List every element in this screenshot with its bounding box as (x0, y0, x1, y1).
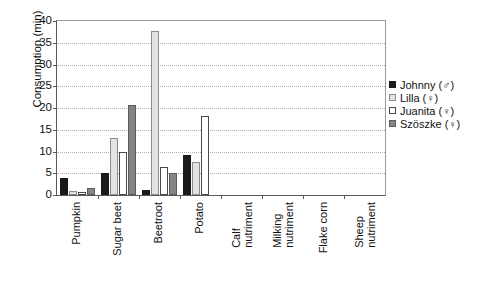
x-axis-label-line: nutriment (365, 202, 377, 248)
x-axis-label: Sheepnutriment (354, 202, 377, 248)
bar (87, 188, 95, 195)
y-tick-label: 25 (39, 81, 52, 93)
chart-legend: Johnny (♂)Lilla (♀)Juanita (♀)Szöszke (♀… (389, 78, 479, 130)
y-tick-label: 15 (39, 124, 52, 136)
bar-group (180, 21, 221, 195)
x-label-cell: Pumpkin (56, 200, 97, 282)
x-tick-mark (262, 195, 263, 199)
y-tick-label: 35 (39, 37, 52, 49)
y-tick-mark (53, 195, 57, 196)
x-axis-label-line: Calf (230, 202, 242, 248)
legend-item-label: Juanita (♀) (400, 105, 454, 117)
bar (151, 31, 159, 195)
y-tick-label: 5 (46, 168, 52, 180)
x-axis-label-line: Flake corn (318, 202, 330, 253)
bar (160, 167, 168, 195)
bar-group (98, 21, 139, 195)
x-axis-label: Beetroot (153, 202, 165, 244)
x-axis-label: Pumpkin (71, 202, 83, 245)
y-tick-label: 30 (39, 59, 52, 71)
x-label-cell: Beetroot (139, 200, 180, 282)
bar (192, 162, 200, 195)
bar (142, 190, 150, 195)
legend-item-label: Johnny (♂) (400, 79, 454, 91)
x-axis-label-line: Pumpkin (71, 202, 83, 245)
x-axis-label-line: nutriment (283, 202, 295, 248)
x-tick-mark (139, 195, 140, 199)
bar-groups (57, 21, 385, 195)
x-axis-label: Calfnutriment (230, 202, 253, 248)
bar-group (262, 21, 303, 195)
y-tick-label: 10 (39, 146, 52, 158)
legend-swatch-icon (389, 120, 396, 127)
x-label-cell: Sheepnutriment (345, 200, 386, 282)
legend-item-label: Szöszke (♀) (400, 118, 460, 130)
bar-group (221, 21, 262, 195)
x-axis-label-line: Sugar beet (112, 202, 124, 256)
x-tick-mark (303, 195, 304, 199)
bar-group (344, 21, 385, 195)
x-tick-mark (180, 195, 181, 199)
x-label-cell: Flake corn (304, 200, 345, 282)
x-label-cell: Potato (180, 200, 221, 282)
x-label-cell: Calfnutriment (221, 200, 262, 282)
bar (60, 178, 68, 195)
bar (69, 191, 77, 195)
bar (169, 173, 177, 195)
x-axis-label: Milkingnutriment (271, 202, 294, 248)
bar-group (57, 21, 98, 195)
legend-item[interactable]: Szöszke (♀) (389, 117, 479, 130)
x-label-cell: Milkingnutriment (262, 200, 303, 282)
y-tick-label: 0 (46, 189, 52, 201)
x-axis-label-line: Potato (195, 202, 207, 234)
bar (110, 138, 118, 195)
bar (78, 192, 86, 195)
x-label-cell: Sugar beet (97, 200, 138, 282)
bar-group (139, 21, 180, 195)
x-tick-mark (221, 195, 222, 199)
bar (119, 152, 127, 196)
legend-swatch-icon (389, 107, 396, 114)
chart-figure: Consumption (min) 0510152025303540 Pumpk… (0, 0, 479, 283)
x-axis-label-line: Beetroot (153, 202, 165, 244)
y-tick-label: 40 (39, 15, 52, 27)
legend-item[interactable]: Juanita (♀) (389, 104, 479, 117)
x-tick-mark (98, 195, 99, 199)
legend-swatch-icon (389, 81, 396, 88)
x-axis-label-line: nutriment (242, 202, 254, 248)
legend-item[interactable]: Lilla (♀) (389, 91, 479, 104)
x-axis-labels: PumpkinSugar beetBeetrootPotatoCalfnutri… (56, 200, 386, 282)
legend-swatch-icon (389, 94, 396, 101)
bar-group (303, 21, 344, 195)
legend-item[interactable]: Johnny (♂) (389, 78, 479, 91)
x-axis-label: Sugar beet (112, 202, 124, 256)
legend-item-label: Lilla (♀) (400, 92, 438, 104)
x-axis-label-line: Milking (271, 202, 283, 248)
bar (101, 173, 109, 195)
plot-area: 0510152025303540 (56, 20, 386, 196)
bar (183, 155, 191, 195)
x-axis-label: Flake corn (318, 202, 330, 253)
y-tick-label: 20 (39, 102, 52, 114)
x-tick-mark (344, 195, 345, 199)
bar (128, 105, 136, 195)
x-axis-label: Potato (195, 202, 207, 234)
bar (201, 116, 209, 195)
